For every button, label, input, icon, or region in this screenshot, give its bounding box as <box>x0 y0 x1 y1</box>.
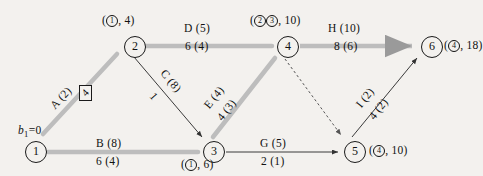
node-6[interactable]: 6 <box>421 36 443 58</box>
edge-D-capacity-label: D (5) <box>184 22 210 34</box>
node-1[interactable]: 1 <box>25 141 47 163</box>
node-5[interactable]: 5 <box>344 141 366 163</box>
node-2-label: 2 <box>132 39 138 53</box>
node-4-annotation: (23, 10) <box>250 14 301 27</box>
edge-H-capacity-label: H (10) <box>328 22 360 34</box>
edge-H-flow-label: 8 (6) <box>334 40 358 52</box>
node-6-annotation: (4, 18) <box>444 39 483 52</box>
node-3-label: 3 <box>211 144 217 158</box>
node-2-annotation: (1, 4) <box>102 14 135 27</box>
edge-E-line <box>213 58 275 137</box>
node-3-annotation: (1, 6) <box>181 158 214 171</box>
edge-A-flow-label: 4 <box>79 87 91 99</box>
edge-B-flow-label: 6 (4) <box>96 155 120 167</box>
node-2[interactable]: 2 <box>124 36 146 58</box>
edge-G-capacity-label: G (5) <box>260 137 286 149</box>
node-6-label: 6 <box>429 39 435 53</box>
edge-dashed-4-5-line <box>285 59 341 135</box>
node-4[interactable]: 4 <box>277 36 299 58</box>
edge-G-flow-label: 2 (1) <box>261 155 285 167</box>
node-1-label: 1 <box>33 144 39 158</box>
edge-A-flow-box: 4 <box>79 85 92 101</box>
node-1-annotation: b1=0 <box>18 124 41 139</box>
node-5-label: 5 <box>352 144 358 158</box>
node-5-annotation: (4, 10) <box>369 144 408 157</box>
edge-B-capacity-label: B (8) <box>96 137 121 149</box>
node-4-label: 4 <box>285 39 291 53</box>
edge-D-flow-label: 6 (4) <box>185 40 209 52</box>
